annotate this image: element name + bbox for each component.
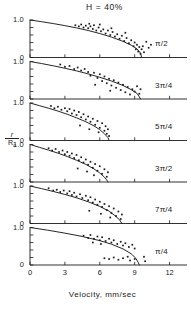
panel-label-1: π/2: [155, 39, 168, 48]
data-point: [129, 94, 131, 96]
data-point: [69, 190, 71, 192]
data-point: [86, 171, 88, 173]
data-point: [109, 90, 111, 92]
data-point: [57, 106, 59, 108]
data-point: [73, 68, 75, 70]
data-point: [79, 193, 81, 195]
data-point: [83, 113, 85, 115]
data-point: [129, 260, 131, 262]
data-point: [122, 257, 124, 259]
data-point: [64, 153, 66, 155]
data-point: [77, 168, 79, 170]
data-point: [144, 260, 146, 262]
data-point: [80, 116, 82, 118]
data-point: [90, 75, 92, 77]
x-tick-label-12: 12: [163, 268, 177, 277]
data-point: [66, 110, 68, 112]
data-point: [140, 53, 142, 55]
data-point: [64, 107, 66, 109]
data-point: [101, 122, 103, 124]
data-point: [79, 125, 81, 127]
data-point: [134, 248, 136, 250]
data-point: [127, 256, 129, 258]
x-tick-label-6: 6: [93, 268, 107, 277]
data-point: [77, 67, 79, 69]
panel-curve: [30, 62, 140, 100]
data-point: [90, 196, 92, 198]
data-point: [63, 190, 65, 192]
x-tick-label-0: 0: [23, 268, 37, 277]
data-point: [101, 206, 103, 208]
data-point: [109, 217, 111, 219]
panel-label-6: π/4: [155, 247, 168, 256]
data-point: [112, 31, 114, 33]
data-point: [135, 48, 137, 50]
data-point: [136, 85, 138, 87]
data-point: [93, 24, 95, 26]
data-point: [108, 78, 110, 80]
data-point: [104, 203, 106, 205]
panel-label-4: 3π/2: [155, 164, 172, 173]
y-tick-label-top: 1.0: [6, 98, 24, 107]
data-point: [120, 218, 122, 220]
data-point: [90, 26, 92, 28]
data-point: [88, 128, 90, 130]
y-tick-label-top: 1.0: [6, 223, 24, 232]
panel-label-2: 3π/4: [155, 81, 172, 90]
data-point: [125, 91, 127, 93]
data-point: [80, 70, 82, 72]
data-point: [113, 208, 115, 210]
data-point: [111, 212, 113, 214]
data-point: [76, 114, 78, 116]
data-point: [125, 32, 127, 34]
data-point: [76, 154, 78, 156]
y-tick-label-top: 1.0: [6, 15, 24, 24]
data-point: [97, 170, 99, 172]
data-point: [105, 33, 107, 35]
data-point: [54, 107, 56, 109]
data-point: [90, 234, 92, 236]
data-point: [75, 24, 77, 26]
data-point: [87, 71, 89, 73]
data-point: [101, 173, 103, 175]
data-point: [142, 45, 144, 47]
data-point: [92, 242, 94, 244]
data-point: [90, 121, 92, 123]
data-point: [118, 259, 120, 261]
data-point: [87, 199, 89, 201]
data-point: [108, 205, 110, 207]
data-point: [80, 156, 82, 158]
data-point: [134, 91, 136, 93]
data-point: [121, 214, 123, 216]
data-point: [108, 258, 110, 260]
data-point: [97, 204, 99, 206]
data-point: [140, 88, 142, 90]
data-point: [92, 167, 94, 169]
data-point: [126, 37, 128, 39]
data-point: [97, 77, 99, 79]
data-point: [101, 80, 103, 82]
data-point: [50, 105, 52, 107]
data-point: [66, 151, 68, 153]
data-point: [97, 120, 99, 122]
data-point: [73, 157, 75, 159]
data-point: [105, 125, 107, 127]
y-tick-label-bottom: 0: [6, 260, 24, 269]
data-point: [94, 84, 96, 86]
data-point: [56, 189, 58, 191]
data-point: [92, 118, 94, 120]
data-point: [97, 236, 99, 238]
data-point: [107, 30, 109, 32]
figure-container: H = 40% r Ro Velocity, mm/sec 1.00π/21.0…: [0, 0, 191, 311]
data-point: [90, 161, 92, 163]
data-point: [99, 127, 101, 129]
data-point: [87, 27, 89, 29]
data-point: [123, 40, 125, 42]
data-point: [95, 30, 97, 32]
data-point: [58, 151, 60, 153]
data-point: [104, 130, 106, 132]
data-point: [52, 190, 54, 192]
data-point: [87, 116, 89, 118]
data-point: [141, 48, 143, 50]
data-point: [114, 36, 116, 38]
